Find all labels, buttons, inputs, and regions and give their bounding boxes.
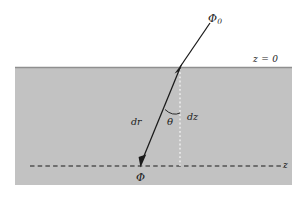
- figure-canvas: [0, 0, 305, 200]
- ray-path-diagram: Φ0 z = 0 dr θ dz Φ z: [0, 0, 305, 200]
- label-z-axis: z: [283, 161, 288, 170]
- label-surface-z-equals-zero: z = 0: [253, 55, 278, 64]
- label-phi-zero-subscript: 0: [217, 17, 222, 26]
- medium-half-space: [15, 67, 292, 185]
- label-phi-zero: Φ0: [208, 13, 222, 26]
- label-theta: θ: [167, 117, 173, 127]
- label-dr: dr: [131, 117, 142, 127]
- label-phi-zero-symbol: Φ: [208, 12, 217, 25]
- label-dz: dz: [187, 112, 198, 122]
- label-phi: Φ: [136, 172, 145, 183]
- ray-segment-above: [180, 23, 210, 67]
